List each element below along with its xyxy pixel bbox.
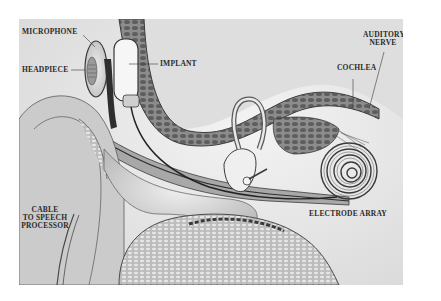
label-auditory-nerve-line2: NERVE: [363, 39, 403, 47]
label-microphone: MICROPHONE: [22, 28, 77, 36]
label-cable-to-speech-processor: CABLE TO SPEECH PROCESSOR: [21, 206, 69, 230]
label-electrode-array: ELECTRODE ARRAY: [309, 210, 387, 218]
label-cable-line3: PROCESSOR: [21, 222, 69, 230]
anatomy-drawing: [19, 19, 403, 285]
label-auditory-nerve: AUDITORY NERVE: [363, 31, 403, 47]
cochlear-implant-illustration: MICROPHONE HEADPIECE IMPLANT COCHLEA AUD…: [19, 19, 403, 285]
label-cochlea: COCHLEA: [337, 64, 376, 72]
label-implant: IMPLANT: [160, 60, 197, 68]
label-headpiece: HEADPIECE: [22, 66, 68, 74]
